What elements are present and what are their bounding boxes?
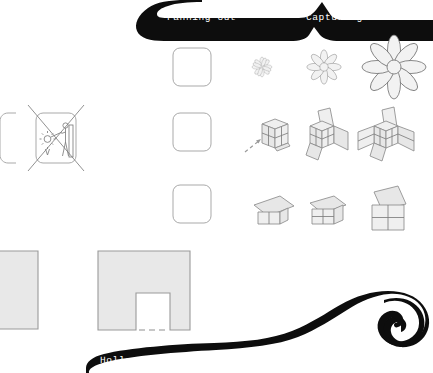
flower-icon-large[interactable] <box>362 35 426 99</box>
placeholder-square-row3[interactable] <box>173 185 211 223</box>
ribbon-label-capturing-the-sun: Capturing the sun <box>306 12 413 23</box>
facade-elevation-oriel[interactable] <box>98 251 190 330</box>
canopy-icon-flat[interactable] <box>254 196 294 224</box>
cube-unfold-arrow <box>245 139 261 152</box>
facade-elevation-left[interactable] <box>0 251 38 345</box>
left-icon-cropped-square[interactable] <box>0 113 16 163</box>
canopy-icon-tilted[interactable] <box>310 196 346 224</box>
cube-icon-closed[interactable] <box>262 119 290 151</box>
placeholder-square-row1[interactable] <box>173 48 211 86</box>
flower-icon-medium[interactable] <box>307 50 341 84</box>
placeholder-square-row2[interactable] <box>173 113 211 151</box>
diagram-canvas: .stk{fill:none;stroke:#7d7d7d;stroke-wid… <box>0 0 433 373</box>
ribbon-spiral-core <box>378 298 425 346</box>
ribbon-label-fanning-out: Fanning out <box>167 12 236 23</box>
flower-icon-small[interactable] <box>252 57 272 77</box>
person-sun-icon-crossed-out[interactable] <box>28 105 84 171</box>
person-glyph <box>62 123 74 157</box>
canopy-icon-raised[interactable] <box>372 186 406 230</box>
cube-icon-unfolded[interactable] <box>358 107 414 161</box>
cube-icon-half-open[interactable] <box>306 108 348 160</box>
ribbon-label-hollow-oriel-window: Hollow oriel window <box>100 355 220 366</box>
